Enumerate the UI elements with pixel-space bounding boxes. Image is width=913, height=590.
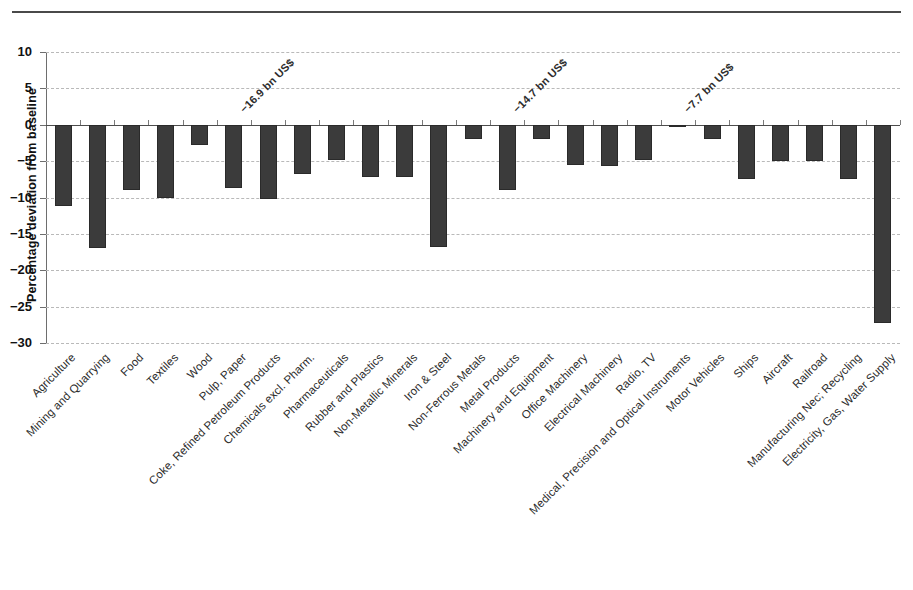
x-tick-mark — [695, 120, 696, 125]
bar[interactable] — [260, 125, 277, 199]
gridline-neg30 — [46, 343, 900, 344]
bar[interactable] — [465, 125, 482, 140]
y-tick-mark — [40, 234, 46, 235]
x-tick-mark — [80, 120, 81, 125]
x-tick-mark — [798, 120, 799, 125]
y-tick-mark — [40, 270, 46, 271]
bar[interactable] — [772, 125, 789, 161]
bar[interactable] — [533, 125, 550, 140]
value-annotation: −14.7 bn US$ — [511, 56, 570, 115]
x-tick-mark — [319, 120, 320, 125]
y-tick-mark — [40, 161, 46, 162]
bar[interactable] — [89, 125, 106, 249]
y-tick-label: −20 — [0, 263, 32, 276]
bar-chart-plot: Percentage deviation from baseline 1050−… — [0, 0, 913, 590]
x-tick-mark — [251, 120, 252, 125]
bar[interactable] — [738, 125, 755, 180]
bar[interactable] — [635, 125, 652, 160]
bar[interactable] — [840, 125, 857, 180]
bar[interactable] — [362, 125, 379, 177]
x-tick-mark — [763, 120, 764, 125]
y-tick-mark — [40, 125, 46, 126]
bar[interactable] — [669, 125, 686, 127]
y-tick-label: −25 — [0, 300, 32, 313]
bar[interactable] — [157, 125, 174, 198]
x-tick-mark — [593, 120, 594, 125]
y-tick-label: 0 — [0, 118, 32, 131]
x-tick-mark — [490, 120, 491, 125]
bar[interactable] — [191, 125, 208, 145]
gridline-neg5 — [46, 161, 900, 162]
x-tick-mark — [353, 120, 354, 125]
x-tick-mark — [148, 120, 149, 125]
y-tick-mark — [40, 198, 46, 199]
bar[interactable] — [430, 125, 447, 247]
x-tick-mark — [422, 120, 423, 125]
gridline-10 — [46, 52, 900, 53]
bar[interactable] — [328, 125, 345, 160]
y-tick-label: 5 — [0, 81, 32, 94]
bar[interactable] — [806, 125, 823, 161]
bar[interactable] — [396, 125, 413, 177]
x-tick-mark — [524, 120, 525, 125]
x-tick-mark — [183, 120, 184, 125]
x-tick-mark — [627, 120, 628, 125]
y-tick-label: −5 — [0, 154, 32, 167]
value-annotation: −16.9 bn US$ — [238, 56, 297, 115]
x-tick-mark — [558, 120, 559, 125]
y-tick-mark — [40, 343, 46, 344]
x-tick-mark — [217, 120, 218, 125]
bar[interactable] — [123, 125, 140, 190]
y-tick-mark — [40, 52, 46, 53]
gridline-neg10 — [46, 198, 900, 199]
y-tick-label: 10 — [0, 45, 32, 58]
figure-root: Percentage deviation from baseline 1050−… — [0, 0, 913, 590]
bar[interactable] — [567, 125, 584, 166]
x-tick-mark — [729, 120, 730, 125]
bar[interactable] — [874, 125, 891, 324]
y-tick-label: −15 — [0, 227, 32, 240]
bar[interactable] — [704, 125, 721, 140]
y-tick-mark — [40, 307, 46, 308]
x-tick-mark — [866, 120, 867, 125]
bar[interactable] — [499, 125, 516, 190]
x-tick-mark — [900, 120, 901, 125]
y-tick-mark — [40, 88, 46, 89]
y-tick-label: −10 — [0, 191, 32, 204]
x-tick-mark — [832, 120, 833, 125]
gridline-neg15 — [46, 234, 900, 235]
gridline-neg20 — [46, 270, 900, 271]
y-tick-label: −30 — [0, 336, 32, 349]
gridline-neg25 — [46, 307, 900, 308]
x-tick-mark — [285, 120, 286, 125]
x-tick-mark — [388, 120, 389, 125]
bar[interactable] — [225, 125, 242, 188]
bar[interactable] — [601, 125, 618, 166]
x-tick-mark — [114, 120, 115, 125]
x-tick-mark — [456, 120, 457, 125]
bar[interactable] — [294, 125, 311, 174]
x-tick-mark — [661, 120, 662, 125]
bar[interactable] — [55, 125, 72, 206]
gridline-5 — [46, 88, 900, 89]
